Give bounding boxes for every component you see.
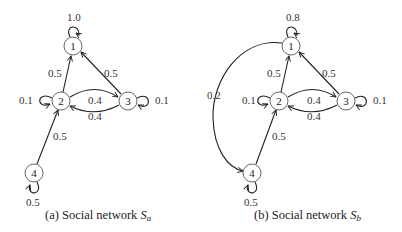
node-4: 4 — [25, 164, 43, 182]
node-3: 3 — [119, 92, 137, 110]
edge-2-1 — [63, 56, 71, 92]
weight-3-2: 0.4 — [307, 110, 321, 122]
edge-3-3 — [137, 96, 148, 106]
node-label: 4 — [31, 167, 37, 179]
weight-4-4: 0.5 — [244, 196, 258, 208]
edge-2-1 — [281, 56, 289, 92]
edge-2-2 — [40, 96, 52, 105]
weight-3-2: 0.4 — [88, 110, 102, 122]
weight-1-4: 0.2 — [207, 89, 221, 101]
edge-4-4 — [29, 182, 38, 193]
node-label: 4 — [249, 167, 255, 179]
node-label: 2 — [276, 95, 282, 107]
node-label: 1 — [288, 40, 294, 52]
node-label: 3 — [125, 95, 131, 107]
weight-3-3: 0.1 — [373, 94, 387, 106]
node-1: 1 — [64, 37, 82, 55]
weight-3-1: 0.5 — [322, 67, 336, 79]
weight-4-4: 0.5 — [26, 196, 40, 208]
weight-2-1: 0.5 — [48, 67, 62, 79]
weight-2-3: 0.4 — [88, 94, 102, 106]
node-label: 1 — [70, 40, 76, 52]
weight-2-1: 0.5 — [267, 67, 281, 79]
figure-canvas: 1.0 0.5 0.5 0.1 0.4 0.4 0.1 0.5 0.5 1 — [0, 0, 402, 232]
weight-1-1: 0.8 — [286, 11, 300, 23]
weight-4-2: 0.5 — [272, 130, 286, 142]
weight-3-3: 0.1 — [155, 94, 169, 106]
weight-2-3: 0.4 — [307, 94, 321, 106]
weight-3-1: 0.5 — [104, 67, 118, 79]
weight-1-1: 1.0 — [67, 11, 81, 23]
weight-4-2: 0.5 — [53, 130, 67, 142]
node-4: 4 — [243, 164, 261, 182]
node-label: 3 — [343, 95, 349, 107]
edge-1-1 — [69, 27, 79, 37]
node-label: 2 — [58, 95, 64, 107]
node-2: 2 — [52, 92, 70, 110]
edge-1-1 — [287, 27, 297, 37]
node-1: 1 — [282, 37, 300, 55]
edge-3-3 — [355, 96, 366, 106]
edge-4-4 — [247, 182, 256, 193]
weight-2-2: 0.1 — [19, 94, 33, 106]
weight-2-2: 0.1 — [242, 94, 256, 106]
panel-b: 0.8 0.2 0.5 0.5 0.1 0.4 0.4 0.1 0.5 0.5 … — [207, 11, 387, 223]
caption-a: (a) Social network Sa — [45, 208, 152, 223]
caption-b: (b) Social network Sb — [254, 208, 361, 223]
node-2: 2 — [270, 92, 288, 110]
node-3: 3 — [337, 92, 355, 110]
panel-a: 1.0 0.5 0.5 0.1 0.4 0.4 0.1 0.5 0.5 1 — [19, 11, 169, 223]
edge-2-2 — [258, 96, 270, 105]
